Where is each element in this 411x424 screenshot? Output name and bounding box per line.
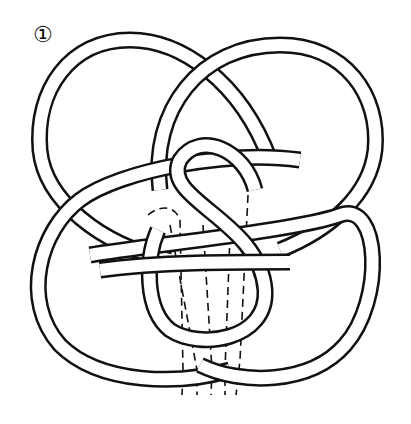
- cord-horizontal-band: [100, 262, 290, 270]
- knot-diagram: [0, 0, 411, 424]
